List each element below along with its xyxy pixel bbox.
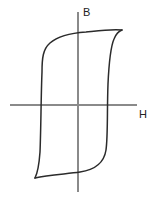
plot-background [0, 0, 160, 199]
bh-curve-plot: B H [0, 0, 160, 199]
axis-label-b: B [83, 6, 90, 18]
hysteresis-figure: B H [0, 0, 160, 199]
axis-label-h: H [139, 108, 147, 120]
